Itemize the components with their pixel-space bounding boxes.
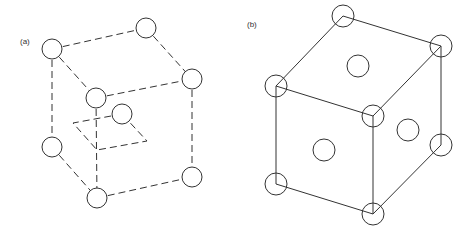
face-atom — [313, 139, 335, 161]
atom — [86, 88, 106, 108]
atom — [87, 188, 107, 208]
atom — [136, 18, 156, 38]
atom — [182, 167, 202, 187]
atom — [42, 137, 62, 157]
face-atom — [347, 55, 369, 77]
crystal-structure-figure: (a) (b) — [0, 0, 470, 236]
center-atom — [112, 104, 132, 124]
panel-b-label: (b) — [247, 20, 257, 29]
atom — [182, 69, 202, 89]
panel-a-label: (a) — [20, 37, 30, 46]
panel-b: (b) — [247, 5, 452, 225]
atom — [42, 39, 62, 59]
panel-a: (a) — [20, 18, 202, 208]
face-atom — [397, 119, 419, 141]
